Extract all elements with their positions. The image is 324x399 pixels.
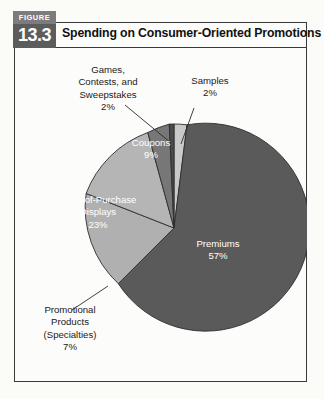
pie-label-promotional-products: Promotional Products (Specialties) 7%: [20, 304, 120, 354]
figure-title-bar: Spending on Consumer-Oriented Promotions: [14, 22, 307, 48]
figure-container: Spending on Consumer-Oriented Promotions…: [0, 0, 324, 399]
pie-label-premiums: Premiums 57%: [180, 238, 256, 263]
figure-tab-label: FIGURE: [13, 11, 56, 24]
figure-number: 13.3: [13, 24, 56, 48]
pie-chart: Games, Contests, and Sweepstakes 2% Samp…: [14, 48, 307, 382]
figure-number-tab: FIGURE 13.3: [13, 11, 56, 48]
page-title: Spending on Consumer-Oriented Promotions: [62, 26, 321, 40]
pie-label-samples: Samples 2%: [180, 75, 240, 100]
pie-label-games: Games, Contests, and Sweepstakes 2%: [62, 64, 154, 114]
pie-label-coupons: Coupons 9%: [114, 137, 188, 162]
pie-label-point-of-purchase: Point-of-Purchase Displays 23%: [45, 194, 151, 231]
